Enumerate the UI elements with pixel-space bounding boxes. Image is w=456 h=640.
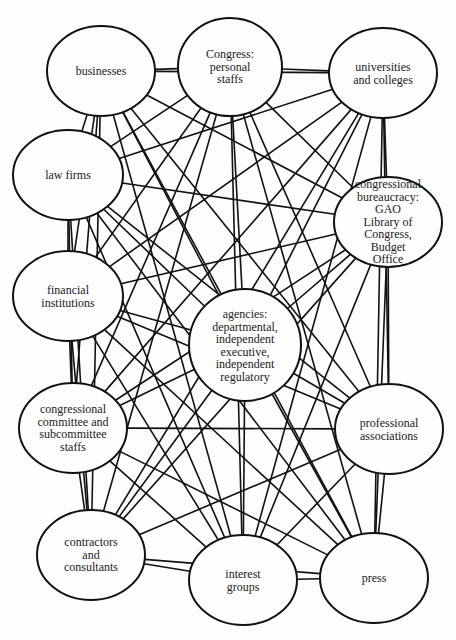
node-label-agencies: agencies: departmental, independent exec… <box>212 308 278 383</box>
edge-contractors-consultants-interest-groups <box>144 564 190 572</box>
edge-agencies-interest-groups <box>243 401 244 535</box>
edge-congress-personal-staffs-universities-colleges <box>282 69 329 71</box>
node-label-press: press <box>362 572 387 585</box>
node-label-interest-groups: interest groups <box>225 568 260 593</box>
edge-congressional-committee-staffs-professional-associations <box>127 428 335 429</box>
edge-professional-associations-interest-groups <box>277 464 355 545</box>
edge-congressional-bureaucracy-professional-associations <box>388 267 389 384</box>
node-label-law-firms: law firms <box>45 169 91 182</box>
node-label-universities-colleges: universities and colleges <box>353 61 413 86</box>
edge-agencies-congressional-committee-staffs <box>120 369 195 405</box>
node-label-congress-personal-staffs: Congress: personal staffs <box>206 48 254 86</box>
edge-law-firms-congressional-bureaucracy <box>122 183 335 214</box>
edge-professional-associations-press <box>379 474 385 533</box>
node-label-businesses: businesses <box>76 65 127 78</box>
edge-businesses-congress-personal-staffs <box>155 69 178 70</box>
edge-businesses-law-firms <box>82 115 87 132</box>
node-label-congressional-bureaucracy: congressional bureaucracy: GAO Library o… <box>354 178 422 266</box>
node-label-financial-institutions: financial institutions <box>41 284 94 309</box>
node-label-professional-associations: professional associations <box>360 417 419 442</box>
node-label-contractors-consultants: contractors and consultants <box>64 536 118 574</box>
node-label-congressional-committee-staffs: congressional committee and subcommittee… <box>38 403 109 453</box>
